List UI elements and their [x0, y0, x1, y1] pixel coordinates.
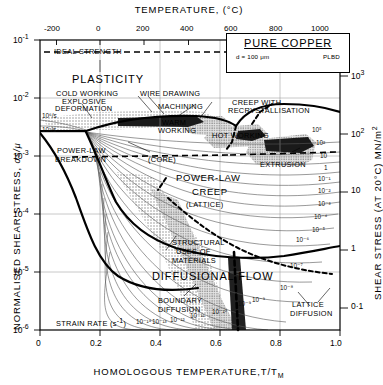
top-tick-1: 0	[96, 24, 100, 33]
legend-map-code: PLBD	[323, 53, 340, 60]
top-tick-6: 1000	[311, 24, 329, 33]
strain-rate-legend-text: STRAIN RATE (s	[56, 319, 117, 328]
label-power-law-creep-1: POWER-LAW	[176, 172, 241, 183]
strain-rate-legend: STRAIN RATE (s-1)	[56, 317, 126, 328]
rate-label-b2: 10⁻¹²	[170, 316, 185, 324]
left-tick-2-exp: -3	[22, 149, 28, 156]
left-tick-5-exp: -6	[22, 323, 28, 330]
right-tick-0: 103	[351, 69, 364, 81]
rate-label-r11: 10⁻⁸	[280, 284, 293, 292]
label-lattice-diffusion-2: DIFFUSION	[290, 309, 333, 318]
right-tick-1-exp: 2	[360, 127, 364, 134]
strain-rate-legend-sup: -1	[117, 317, 124, 324]
rate-label-b3: 10⁻¹¹	[190, 312, 205, 320]
top-tick-3: 400	[180, 24, 193, 33]
left-tick-5: 10-6	[13, 323, 29, 335]
bottom-tick-5: 1.0	[330, 338, 342, 348]
label-deformation: DEFORMATION	[55, 104, 112, 113]
top-tick-4: 600	[224, 24, 237, 33]
left-tick-2: 10-3	[13, 149, 29, 161]
label-materials: MATERIALS	[172, 256, 216, 265]
left-tick-0: 10-1	[13, 33, 29, 45]
label-lattice-diffusion-1: LATTICE	[292, 300, 324, 309]
rate-label-r0: 10⁵	[312, 126, 322, 133]
right-tick-1: 102	[351, 127, 364, 139]
label-diffusional-flow: DIFFUSIONAL FLOW	[152, 270, 274, 282]
left-tick-3: 10-4	[13, 207, 29, 219]
right-tick-3: 1	[351, 243, 356, 253]
right-tick-2: 10	[351, 185, 360, 195]
bottom-tick-2: 0.4	[150, 338, 162, 348]
rate-label-r12: 10⁻⁹	[252, 296, 265, 304]
strain-rate-legend-end: )	[124, 319, 127, 328]
rate-label-b0: 10⁻¹⁴	[136, 318, 151, 326]
label-uses-of: USES OF	[176, 247, 211, 256]
rate-label-r10: 10⁻⁷	[290, 262, 303, 270]
left-tick-1-exp: -2	[22, 91, 28, 98]
label-plasticity: PLASTICITY	[72, 73, 144, 85]
legend-grain-size: d = 100 μm	[236, 53, 269, 60]
left-tick-4-exp: -5	[22, 265, 28, 272]
right-tick-4: 0·1	[351, 301, 363, 311]
rate-label-r5: 10⁻²	[318, 187, 331, 195]
rate-label-r3: 1	[324, 164, 328, 171]
label-hot-working: HOT WORKING	[212, 131, 269, 140]
label-boundary-diffusion-1: BOUNDARY	[158, 296, 202, 305]
rate-label-r7: 10⁻⁴	[314, 213, 327, 221]
label-working: WORKING	[158, 126, 196, 135]
bottom-tick-4: 0.8	[270, 338, 282, 348]
rate-label-r2: 10	[320, 152, 327, 159]
material-legend-box: PURE COPPER d = 100 μm PLBD	[226, 33, 350, 73]
rate-label-r4: 10⁻¹	[318, 175, 331, 183]
label-core: (CORE)	[148, 155, 176, 164]
bottom-tick-1: 0.2	[90, 338, 102, 348]
rate-label-r6: 10⁻³	[318, 200, 331, 208]
label-machining: MACHINING	[158, 102, 203, 111]
rate-label-b5: 10⁻⁹	[238, 300, 251, 308]
label-recrystallisation: RECRYSTALLISATION	[228, 106, 310, 115]
right-tick-0-exp: 3	[360, 69, 364, 76]
rate-label-b1: 10⁻¹³	[152, 318, 167, 326]
label-power-law-breakdown-2: BREAKDOWN	[55, 155, 106, 164]
label-lattice-sub: (LATTICE)	[186, 200, 223, 209]
rate-label-r1: 10²	[316, 139, 325, 146]
rate-label-l1: 10²/s	[42, 126, 56, 133]
left-tick-4: 10-5	[13, 265, 29, 277]
bottom-tick-0: 0	[36, 338, 41, 348]
label-wire-drawing: WIRE DRAWING	[140, 89, 200, 98]
left-tick-3-exp: -4	[22, 207, 28, 214]
rate-label-l0: 10⁶/s	[42, 112, 57, 119]
legend-title: PURE COPPER	[227, 37, 349, 49]
bottom-tick-3: 0.6	[210, 338, 222, 348]
rate-label-b4: 10⁻¹⁰	[212, 308, 227, 316]
left-tick-0-exp: -1	[22, 33, 28, 40]
top-tick-2: 200	[136, 24, 149, 33]
label-structural: STRUCTURAL	[172, 238, 225, 247]
label-power-law-creep-2: CREEP	[192, 186, 228, 197]
label-extrusion: EXTRUSION	[260, 160, 306, 169]
top-tick-5: 800	[269, 24, 282, 33]
label-ideal-strength: IDEAL STRENGTH	[54, 47, 122, 56]
rate-label-r9: 10⁻⁶	[296, 236, 309, 244]
left-tick-1: 10-2	[13, 91, 29, 103]
top-tick-0: -200	[44, 24, 60, 33]
rate-label-r8: 10⁻⁵	[312, 226, 325, 234]
label-power-law-breakdown-1: POWER-LAW	[57, 146, 106, 155]
